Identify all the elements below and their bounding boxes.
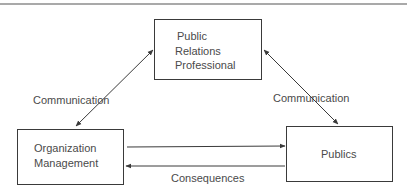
right-communication-label: Communication xyxy=(273,91,349,105)
left-diagonal-arrow xyxy=(76,50,153,126)
left-communication-label: Communication xyxy=(33,93,109,107)
publics-label: Publics xyxy=(321,147,356,162)
org-to-publics-arrow xyxy=(127,146,285,147)
pr-professional-box: Public Relations Professional xyxy=(154,19,262,80)
org-line-2: Management xyxy=(34,156,98,171)
organization-box: Organization Management xyxy=(17,129,124,185)
pr-line-1: Public xyxy=(175,29,236,44)
right-diagonal-arrow xyxy=(264,50,338,124)
consequences-label: Consequences xyxy=(171,171,244,185)
pr-line-2: Relations xyxy=(175,44,236,59)
pr-line-3: Professional xyxy=(175,58,236,73)
org-line-1: Organization xyxy=(34,141,98,156)
publics-box: Publics xyxy=(286,126,393,182)
